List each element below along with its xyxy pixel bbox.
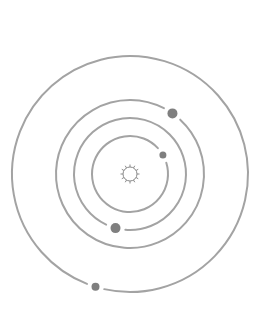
orbit-path <box>74 118 186 230</box>
planet-icon <box>92 283 100 291</box>
orbits-group <box>12 56 248 292</box>
planet-icon <box>111 223 121 233</box>
planet-icon <box>159 152 166 159</box>
orbit-1 <box>92 136 168 212</box>
planet-icon <box>167 108 177 118</box>
orbit-path <box>12 56 248 292</box>
orbit-4 <box>12 56 248 292</box>
solar-system-diagram <box>0 0 278 312</box>
sun-icon <box>121 165 140 184</box>
orbit-path <box>56 100 204 248</box>
orbit-3 <box>56 100 204 248</box>
orbit-path <box>92 136 168 212</box>
